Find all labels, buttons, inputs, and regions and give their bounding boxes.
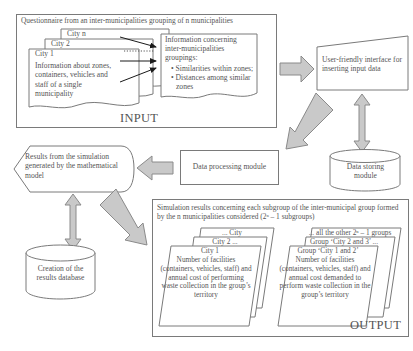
info-bullet-2: Distances among similar zones (171, 74, 255, 92)
results-shape-label: Results from the simulation generated by… (25, 152, 118, 180)
output-panel-label: OUTPUT (350, 318, 401, 333)
arrow-interface-storing-double (352, 93, 372, 153)
output-right-card-1-body: Number of facilities (containers, vehicl… (279, 256, 371, 300)
input-thin-arrows (118, 34, 166, 90)
results-database-label: Creation of the results database (29, 264, 92, 282)
diagram-canvas: Questionnaire from an inter-municipaliti… (0, 0, 413, 351)
input-card-city-1-body: Information about zones, containers, veh… (35, 61, 113, 98)
output-panel-header: Simulation results concerning each subgr… (157, 203, 405, 222)
arrow-input-to-interface (279, 55, 315, 83)
data-processing-module-label: Data processing module (183, 163, 276, 172)
output-right-card-1-title: Group ‘City 1 and 2’ (283, 247, 373, 255)
output-left-card-1-body: Number of facilities (containers, vehicl… (160, 256, 252, 300)
input-panel-header: Questionnaire from an inter-municipaliti… (21, 17, 273, 25)
input-info-box-heading: Information concerning inter-municipalit… (165, 36, 253, 63)
arrow-interface-to-processing (272, 92, 334, 154)
arrow-processing-to-results (136, 155, 174, 181)
input-info-box-bullets: Similarities within zones; Distances amo… (165, 65, 255, 92)
input-panel-label: INPUT (120, 111, 158, 126)
interface-box-label: User-friendly interface for inserting in… (322, 55, 406, 73)
input-card-city-1-title: City 1 (35, 50, 54, 59)
data-storing-module-label: Data storing module (337, 162, 394, 180)
output-left-card-1-title: City 1 (166, 247, 254, 255)
